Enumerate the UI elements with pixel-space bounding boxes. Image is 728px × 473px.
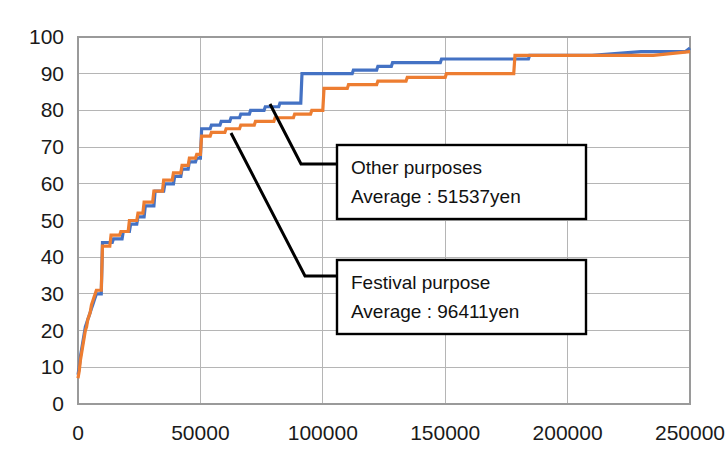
x-tick-label-200000: 200000 [533, 421, 603, 444]
cumulative-distribution-chart: 0102030405060708090100 05000010000015000… [0, 0, 728, 473]
annotation-title-festival-purpose: Festival purpose [351, 272, 490, 293]
annotation-average-festival-purpose: Average : 96411yen [351, 301, 519, 322]
annotation-average-other-purposes: Average : 51537yen [351, 186, 521, 207]
y-tick-label-100: 100 [29, 25, 64, 48]
y-tick-label-20: 20 [41, 319, 64, 342]
y-tick-label-90: 90 [41, 62, 64, 85]
y-tick-label-60: 60 [41, 172, 64, 195]
y-tick-label-80: 80 [41, 98, 64, 121]
x-tick-label-50000: 50000 [171, 421, 229, 444]
x-tick-label-150000: 150000 [410, 421, 480, 444]
chart-container: 0102030405060708090100 05000010000015000… [0, 0, 728, 473]
x-tick-label-100000: 100000 [288, 421, 358, 444]
annotation-title-other-purposes: Other purposes [351, 157, 482, 178]
y-tick-label-70: 70 [41, 135, 64, 158]
x-tick-label-250000: 250000 [655, 421, 725, 444]
x-tick-label-0: 0 [72, 421, 84, 444]
y-tick-label-50: 50 [41, 209, 64, 232]
y-tick-label-30: 30 [41, 282, 64, 305]
y-tick-label-40: 40 [41, 245, 64, 268]
y-tick-label-10: 10 [41, 355, 64, 378]
y-tick-label-0: 0 [52, 392, 64, 415]
